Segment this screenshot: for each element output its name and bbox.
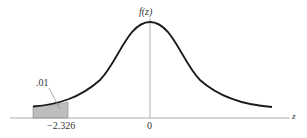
x-axis-label: z [292,111,296,121]
y-axis-label: f(z) [139,6,152,17]
tick-label-zero: 0 [147,120,152,131]
area-label: .01 [36,77,49,88]
tick-label-critical: −2.326 [47,120,75,131]
normal-distribution-chart [0,0,307,138]
density-curve [33,22,272,107]
